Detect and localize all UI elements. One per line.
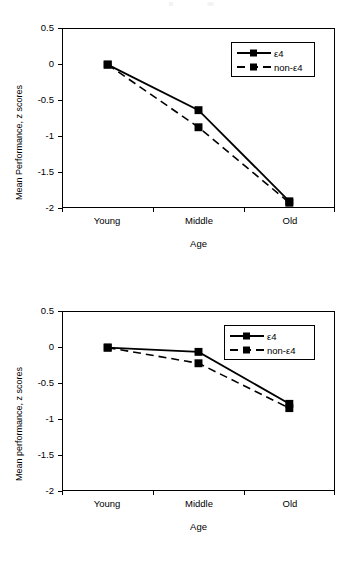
- bottom-chart-y-axis-title: Mean performance, z scores: [14, 367, 24, 481]
- legend-entry-e4: ε4: [229, 329, 309, 343]
- legend-line-dashed-icon: [229, 344, 265, 356]
- legend-line-solid-icon: [229, 330, 265, 342]
- legend-entry-e4: ε4: [236, 46, 309, 60]
- y-tick-mark: [58, 172, 62, 173]
- legend-entry-non-e4: non-ε4: [236, 60, 309, 74]
- y-tick-label: 0.5: [28, 306, 54, 316]
- top-chart-y-axis-title: Mean Performance, z scores: [14, 85, 24, 200]
- y-tick-label: 0: [28, 342, 54, 352]
- y-tick-label: 0.5: [28, 23, 54, 33]
- y-tick-label: -2: [28, 203, 54, 213]
- legend-label-non-e4: non-ε4: [265, 345, 296, 356]
- x-tick-mark: [153, 491, 154, 495]
- series-non-e4-marker: [195, 123, 203, 131]
- top-chart-figure: Mean Performance, z scores 0.5 0 -0.5 -1…: [0, 0, 349, 283]
- y-tick-mark: [58, 383, 62, 384]
- series-non-e4-marker: [195, 359, 203, 367]
- y-tick-label: -0.5: [28, 95, 54, 105]
- y-tick-mark: [58, 419, 62, 420]
- series-e4-marker: [195, 348, 203, 356]
- y-tick-label: -1.5: [28, 450, 54, 460]
- top-chart-legend: ε4 non-ε4: [231, 42, 315, 77]
- y-tick-label: -1: [28, 131, 54, 141]
- legend-line-dashed-icon: [236, 61, 272, 73]
- x-tick-mark: [153, 208, 154, 212]
- y-tick-label: -2: [28, 486, 54, 496]
- y-tick-label: -0.5: [28, 378, 54, 388]
- y-tick-label: 0: [28, 59, 54, 69]
- x-tick-mark: [62, 208, 63, 212]
- series-non-e4-marker: [285, 199, 293, 207]
- legend-label-e4: ε4: [272, 48, 284, 59]
- bottom-chart-legend: ε4 non-ε4: [224, 325, 315, 360]
- y-tick-mark: [58, 64, 62, 65]
- legend-label-non-e4: non-ε4: [272, 62, 303, 73]
- series-e4-marker: [195, 106, 203, 114]
- chart-panel-top: Mean Performance, z scores 0.5 0 -0.5 -1…: [0, 0, 349, 283]
- y-tick-mark: [58, 136, 62, 137]
- chart-panel-bottom: Mean performance, z scores 0.5 0 -0.5 -1…: [0, 283, 349, 565]
- x-tick-label: Young: [77, 498, 137, 509]
- legend-label-e4: ε4: [265, 331, 277, 342]
- legend-entry-non-e4: non-ε4: [229, 343, 309, 357]
- y-tick-mark: [58, 28, 62, 29]
- y-tick-mark: [58, 100, 62, 101]
- x-tick-label: Old: [260, 498, 320, 509]
- series-non-e4-marker: [104, 61, 112, 69]
- legend-line-solid-icon: [236, 47, 272, 59]
- y-tick-mark: [58, 347, 62, 348]
- x-tick-label: Middle: [169, 498, 229, 509]
- x-tick-label: Old: [260, 215, 320, 226]
- x-tick-label: Middle: [169, 215, 229, 226]
- figure-page: Mean Performance, z scores 0.5 0 -0.5 -1…: [0, 0, 349, 565]
- y-tick-label: -1: [28, 414, 54, 424]
- top-chart-x-axis-title: Age: [62, 238, 335, 249]
- series-non-e4-marker: [285, 404, 293, 412]
- x-tick-mark: [244, 491, 245, 495]
- x-tick-mark: [334, 491, 335, 495]
- bottom-chart-figure: Mean performance, z scores 0.5 0 -0.5 -1…: [0, 283, 349, 565]
- y-tick-label: -1.5: [28, 167, 54, 177]
- bottom-chart-x-axis-title: Age: [62, 521, 335, 532]
- series-non-e4-marker: [104, 344, 112, 352]
- y-tick-mark: [58, 311, 62, 312]
- x-tick-mark: [62, 491, 63, 495]
- y-tick-mark: [58, 455, 62, 456]
- x-tick-mark: [244, 208, 245, 212]
- x-tick-mark: [334, 208, 335, 212]
- x-tick-label: Young: [77, 215, 137, 226]
- series-non-e4-line: [108, 65, 290, 203]
